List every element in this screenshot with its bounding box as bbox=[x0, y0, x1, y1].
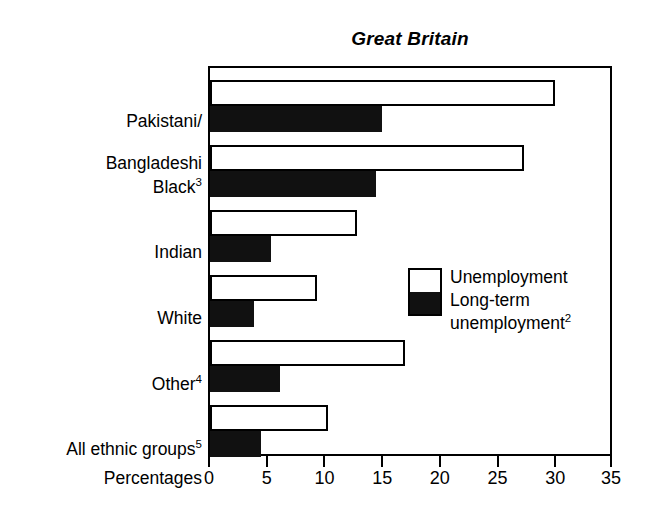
plot-area bbox=[208, 66, 612, 456]
category-label-text: Other bbox=[152, 374, 196, 394]
x-tick bbox=[439, 456, 441, 467]
footnote-marker: 2 bbox=[565, 312, 571, 324]
category-label-all-ethnic-groups: All ethnic groups5 bbox=[8, 418, 208, 460]
bar-group bbox=[210, 340, 610, 392]
category-label-text: All ethnic groups bbox=[66, 439, 195, 459]
footnote-marker: 4 bbox=[196, 373, 202, 385]
bar-unemployment bbox=[210, 405, 328, 431]
bar-long-term-unemployment bbox=[210, 366, 280, 392]
bar-chart: Great Britain Pakistani/ Bangladeshi Bla… bbox=[0, 0, 651, 518]
bar-group bbox=[210, 145, 610, 197]
category-label-indian: Indian bbox=[8, 221, 208, 263]
x-tick-label: 25 bbox=[478, 468, 518, 489]
x-tick bbox=[554, 456, 556, 467]
bar-long-term-unemployment bbox=[210, 431, 261, 457]
bar-unemployment bbox=[210, 275, 317, 301]
x-tick-label: 15 bbox=[362, 468, 402, 489]
bar-unemployment bbox=[210, 210, 357, 236]
x-tick-label: 35 bbox=[591, 468, 631, 489]
category-label-line1: Pakistani/ bbox=[126, 111, 202, 131]
category-label-text: White bbox=[157, 308, 202, 328]
x-tick bbox=[323, 456, 325, 467]
x-tick bbox=[610, 456, 612, 467]
category-axis-labels: Pakistani/ Bangladeshi Black3 Indian Whi… bbox=[0, 66, 208, 456]
legend-label-unemployment: Unemployment bbox=[450, 266, 571, 289]
legend-label-line1: Long-term bbox=[450, 290, 530, 310]
chart-title: Great Britain bbox=[208, 28, 612, 50]
bar-unemployment bbox=[210, 80, 555, 106]
category-label-text: Indian bbox=[154, 242, 202, 262]
x-axis-ticks bbox=[208, 456, 612, 468]
category-label-text: Black bbox=[153, 177, 196, 197]
x-tick bbox=[208, 456, 210, 467]
footnote-marker: 3 bbox=[196, 176, 202, 188]
category-label-black: Black3 bbox=[8, 156, 208, 198]
legend-label-line2: unemployment bbox=[450, 313, 565, 333]
bar-long-term-unemployment bbox=[210, 106, 382, 132]
x-axis-title: Percentages bbox=[52, 468, 202, 489]
x-tick bbox=[497, 456, 499, 467]
category-label-white: White bbox=[8, 287, 208, 329]
bar-unemployment bbox=[210, 145, 524, 171]
bar-long-term-unemployment bbox=[210, 236, 271, 262]
x-tick-label: 10 bbox=[304, 468, 344, 489]
category-label-other: Other4 bbox=[8, 353, 208, 395]
x-tick-label: 5 bbox=[247, 468, 287, 489]
legend-swatch-unemployment bbox=[410, 270, 440, 292]
x-tick bbox=[381, 456, 383, 467]
bar-group bbox=[210, 80, 610, 132]
x-tick-label: 30 bbox=[535, 468, 575, 489]
legend-swatch-stack bbox=[408, 268, 442, 316]
bar-group bbox=[210, 210, 610, 262]
footnote-marker: 5 bbox=[196, 438, 202, 450]
legend-labels: Unemployment Long-termunemployment2 bbox=[450, 266, 571, 335]
bar-long-term-unemployment bbox=[210, 301, 254, 327]
bar-unemployment bbox=[210, 340, 405, 366]
legend-swatch-long-term-unemployment bbox=[410, 292, 440, 314]
x-tick bbox=[266, 456, 268, 467]
legend: Unemployment Long-termunemployment2 bbox=[408, 266, 571, 335]
x-tick-label: 20 bbox=[420, 468, 460, 489]
bar-long-term-unemployment bbox=[210, 171, 376, 197]
bar-group bbox=[210, 405, 610, 457]
legend-label-long-term-unemployment: Long-termunemployment2 bbox=[450, 289, 571, 335]
